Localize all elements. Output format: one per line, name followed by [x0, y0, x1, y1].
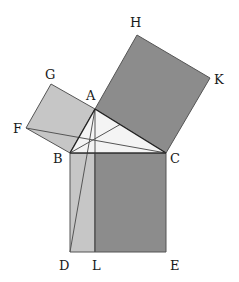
label-d: D: [59, 258, 69, 273]
label-b: B: [53, 151, 63, 166]
pythagorean-diagram: A B C D L E F G H K: [0, 0, 239, 282]
label-f: F: [13, 121, 22, 136]
label-a: A: [85, 88, 96, 103]
label-g: G: [45, 67, 55, 82]
rect-bdl: [70, 153, 95, 252]
label-l: L: [92, 258, 101, 273]
label-c: C: [170, 151, 180, 166]
label-h: H: [130, 15, 141, 30]
label-k: K: [214, 72, 224, 87]
label-e: E: [170, 258, 180, 273]
rect-lce: [95, 153, 166, 252]
